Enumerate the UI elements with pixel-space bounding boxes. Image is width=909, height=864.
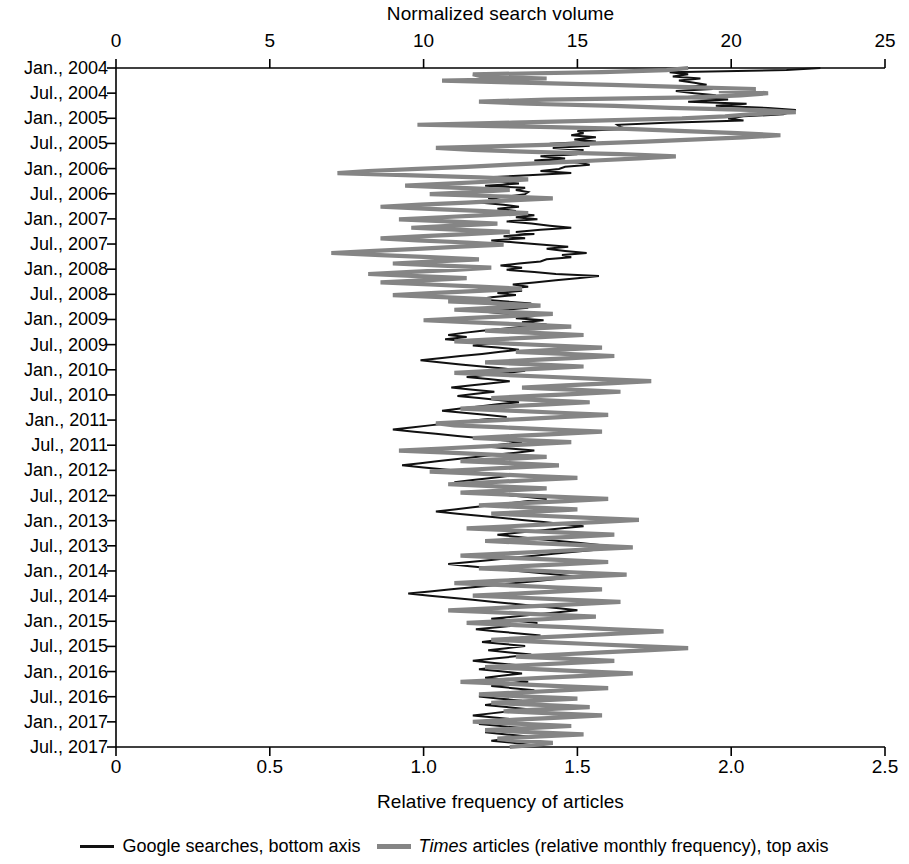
bottom-axis-title: Relative frequency of articles: [116, 790, 885, 814]
legend-line-swatch-gray: [377, 844, 411, 849]
legend-entry-times: Times articles (relative monthly frequen…: [377, 836, 829, 856]
legend-label-times-rest: articles (relative monthly frequency), t…: [467, 836, 828, 856]
chart-legend: Google searches, bottom axis Times artic…: [0, 832, 909, 860]
legend-label-times: Times articles (relative monthly frequen…: [419, 836, 829, 856]
data-series: [331, 68, 820, 747]
legend-label-times-italic: Times: [419, 836, 468, 856]
bottom-axis-tick-label: 2.0: [718, 756, 744, 778]
bottom-axis-tick-label: 1.0: [410, 756, 436, 778]
series-line-times: [331, 68, 795, 747]
chart-figure: Normalized search volume 0510152025 Jan.…: [0, 0, 909, 864]
bottom-axis-tick-label: 0.5: [257, 756, 283, 778]
bottom-axis-tick-label: 1.5: [564, 756, 590, 778]
legend-entry-google: Google searches, bottom axis: [80, 836, 360, 856]
plot-area: [0, 0, 909, 864]
legend-line-swatch-black: [80, 845, 114, 848]
bottom-axis-tick-label: 2.5: [872, 756, 898, 778]
bottom-axis-tick-label: 0: [111, 756, 122, 778]
legend-label-google: Google searches, bottom axis: [122, 836, 360, 856]
